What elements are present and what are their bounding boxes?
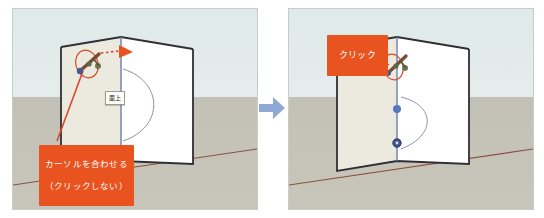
callout-hover: カーソルを合わせる （クリックしない） <box>39 145 134 206</box>
tutorial-figure: 面上 カーソルを合わせる （クリックしない） <box>0 0 544 218</box>
transition-arrow-icon <box>258 88 286 128</box>
inference-tooltip-face-label: 面上 <box>109 95 121 101</box>
callout-hover-line2: （クリックしない） <box>45 181 128 192</box>
inference-endpoint-dot-center <box>396 142 399 145</box>
callout-hover-line1: カーソルを合わせる <box>45 159 128 170</box>
panel-step-1: 面上 カーソルを合わせる （クリックしない） <box>12 8 258 210</box>
panel-step-2: 端点 クリック <box>288 8 534 210</box>
box-face-right <box>397 37 469 164</box>
inference-tooltip-face: 面上 <box>105 91 125 105</box>
scene-right <box>289 9 533 209</box>
callout-click: クリック <box>327 35 388 76</box>
callout-click-line1: クリック <box>339 50 376 61</box>
inference-midpoint-dot <box>393 105 401 113</box>
